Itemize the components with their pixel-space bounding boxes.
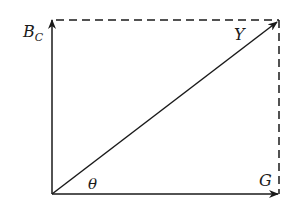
label-bc: BC — [22, 22, 44, 44]
label-theta: θ — [88, 175, 97, 193]
label-g: G — [259, 171, 272, 190]
vector-y — [52, 22, 277, 194]
admittance-diagram: BC Y θ G — [0, 0, 298, 204]
label-y: Y — [234, 25, 246, 44]
